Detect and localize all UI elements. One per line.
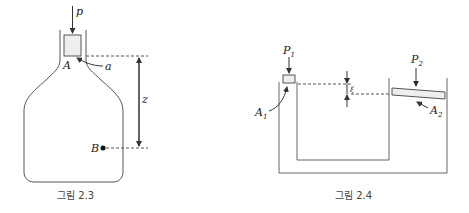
piston-a xyxy=(64,35,81,56)
label-a: a xyxy=(105,60,112,73)
diagram-canvas: p A a z B 그림 2.3 P1 A1 xyxy=(0,0,469,213)
figure-2-3: p A a z B 그림 2.3 xyxy=(24,5,148,201)
u-tube-inner xyxy=(297,78,389,160)
annotation-arrow-icon xyxy=(77,58,103,66)
label-A: A xyxy=(62,59,71,72)
piston-a2 xyxy=(392,88,445,99)
caption-fig-2-3: 그림 2.3 xyxy=(57,190,94,201)
piston-p1 xyxy=(283,75,295,83)
label-p: p xyxy=(76,5,83,18)
label-A1: A1 xyxy=(254,106,267,121)
label-xi: ξ xyxy=(350,86,355,94)
point-B xyxy=(101,146,106,151)
label-P2: P2 xyxy=(410,53,423,68)
label-z: z xyxy=(141,93,148,106)
a2-arrow-icon xyxy=(417,102,428,108)
label-A2: A2 xyxy=(429,104,443,119)
label-P1: P1 xyxy=(282,44,295,59)
figure-2-4: P1 A1 ξ P2 A2 그림 2.4 xyxy=(254,44,447,201)
a1-arrow-icon xyxy=(269,87,287,111)
caption-fig-2-4: 그림 2.4 xyxy=(335,190,372,201)
label-B: B xyxy=(90,142,99,155)
